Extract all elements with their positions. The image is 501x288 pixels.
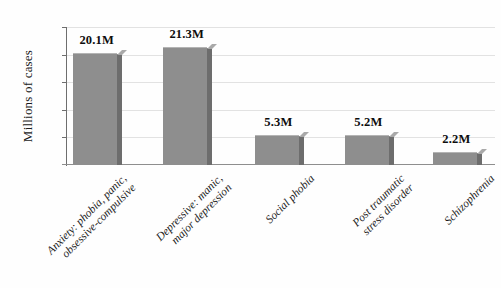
bar-value-label: 21.3M [169, 27, 204, 42]
y-tick-mark-25M [62, 27, 67, 28]
bar-side [477, 153, 482, 165]
bar-face [73, 53, 117, 165]
gridline-15M [66, 82, 495, 83]
gridline-10M [66, 110, 495, 111]
bar-side [207, 48, 212, 166]
bar-side [299, 136, 304, 165]
bar-face [433, 152, 477, 165]
bar-depressive[interactable]: 21.3M [163, 48, 207, 166]
bar-top [207, 44, 217, 49]
gridline-25M [66, 27, 495, 28]
bar-top [299, 132, 309, 137]
bar-ptsd[interactable]: 5.2M [345, 136, 389, 165]
bar-face [163, 47, 207, 166]
gridline-20M [66, 55, 495, 56]
y-tick-mark-20M [62, 55, 67, 56]
bar-top [477, 149, 487, 154]
y-tick-mark-10M [62, 110, 67, 111]
bar-side [389, 136, 394, 165]
bar-value-label: 5.2M [354, 115, 382, 130]
plot-area: 20.1M 21.3M 5.3M 5.2M 2.2M [66, 27, 495, 165]
y-axis-title: Millions of cases [20, 21, 36, 171]
bar-value-label: 20.1M [79, 33, 114, 48]
y-tick-mark-15M [62, 82, 67, 83]
bar-value-label: 5.3M [264, 115, 292, 130]
bar-anxiety[interactable]: 20.1M [73, 54, 117, 165]
bar-schizophrenia[interactable]: 2.2M [433, 153, 477, 165]
bar-face [345, 135, 389, 165]
bar-value-label: 2.2M [442, 132, 470, 147]
bar-social-phobia[interactable]: 5.3M [255, 136, 299, 165]
y-tick-mark-5M [62, 137, 67, 138]
x-tick-label-line: Anxiety: phobia, panic, [7, 172, 129, 288]
bar-face [255, 135, 299, 165]
bar-chart: Millions of cases 25M 20M 15M 10M 5M 0 2… [0, 0, 501, 288]
bar-side [117, 54, 122, 165]
